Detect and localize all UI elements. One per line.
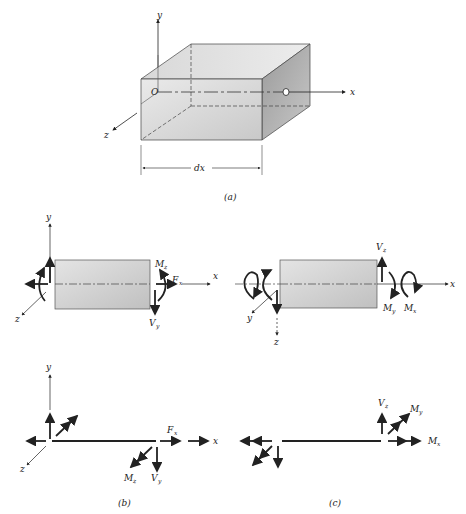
svg-text:x: x	[213, 436, 218, 446]
svg-text:x: x	[179, 279, 183, 286]
svg-text:y: y	[45, 362, 52, 372]
caption-c: (c)	[329, 498, 342, 508]
panel-c-line-model: V z M y M x (c)	[241, 398, 441, 508]
svg-text:z: z	[384, 402, 389, 409]
panel-c-element: x y z V z M y M x	[235, 242, 455, 347]
caption-a: (a)	[224, 192, 237, 202]
svg-text:x: x	[450, 279, 455, 289]
axis-label-y: y	[156, 10, 163, 20]
axis-label-y: y	[45, 212, 52, 222]
svg-text:y: y	[155, 322, 160, 330]
axis-label-z: z	[14, 314, 20, 324]
diagram-canvas: y x z O dx (a) y	[0, 0, 466, 514]
panel-b-element: y z x M z F x V y	[14, 212, 218, 330]
svg-text:x: x	[174, 429, 178, 436]
box-front-face	[141, 79, 262, 140]
svg-text:z: z	[19, 464, 25, 474]
axis-label-x: x	[213, 271, 218, 281]
axis-label-x: x	[350, 87, 355, 97]
svg-text:z: z	[132, 477, 137, 484]
dimension-label-dx: dx	[194, 163, 205, 173]
svg-text:y: y	[246, 313, 253, 323]
caption-b: (b)	[118, 498, 131, 508]
svg-text:F: F	[166, 425, 174, 435]
centroid-dot	[283, 89, 289, 96]
svg-text:z: z	[163, 263, 168, 270]
svg-text:y: y	[391, 307, 396, 315]
svg-text:z: z	[273, 337, 279, 347]
axis-label-z: z	[103, 130, 109, 140]
svg-text:z: z	[382, 246, 387, 253]
svg-text:F: F	[171, 275, 179, 285]
svg-text:y: y	[157, 477, 162, 485]
panel-b-line-model: y x F x z M z V y (b)	[19, 362, 218, 508]
svg-text:y: y	[418, 408, 423, 416]
svg-text:x: x	[413, 307, 417, 314]
svg-text:x: x	[437, 440, 441, 447]
beam-element-diagram: y x z O dx (a) y	[0, 0, 466, 514]
origin-label: O	[151, 87, 159, 97]
panel-a: y x z O dx (a)	[103, 10, 355, 202]
beam-element-box	[55, 260, 150, 309]
